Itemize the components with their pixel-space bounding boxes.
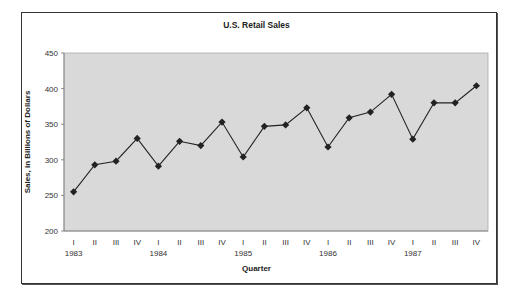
y-tick-label: 250 (45, 191, 59, 200)
x-tick-label: III (113, 238, 120, 247)
x-tick-label: III (282, 238, 289, 247)
x-tick-label: I (412, 238, 414, 247)
y-tick-label: 300 (45, 156, 59, 165)
x-tick-label: II (177, 238, 181, 247)
x-tick-label: I (242, 238, 244, 247)
x-year-label: 1983 (65, 249, 83, 258)
x-year-label: 1984 (150, 249, 168, 258)
plot-area (64, 53, 488, 231)
x-year-label: 1986 (319, 249, 337, 258)
y-tick-label: 400 (45, 85, 59, 94)
x-tick-label: IV (473, 238, 481, 247)
x-tick-label: III (197, 238, 204, 247)
x-tick-label: IV (303, 238, 311, 247)
y-tick-label: 450 (45, 49, 59, 58)
y-tick-label: 350 (45, 120, 59, 129)
x-tick-label: II (432, 238, 436, 247)
x-tick-label: IV (388, 238, 396, 247)
x-tick-label: III (367, 238, 374, 247)
x-tick-label: II (347, 238, 351, 247)
x-tick-label: II (93, 238, 97, 247)
line-chart: 200250300350400450IIIIIIIVIIIIIIIVIIIIII… (0, 0, 513, 298)
x-tick-label: III (452, 238, 459, 247)
x-tick-label: IV (218, 238, 226, 247)
x-tick-label: I (157, 238, 159, 247)
x-year-label: 1987 (404, 249, 422, 258)
x-tick-label: II (262, 238, 266, 247)
x-tick-label: IV (133, 238, 141, 247)
x-year-label: 1985 (234, 249, 252, 258)
y-tick-label: 200 (45, 227, 59, 236)
x-tick-label: I (72, 238, 74, 247)
x-tick-label: I (327, 238, 329, 247)
